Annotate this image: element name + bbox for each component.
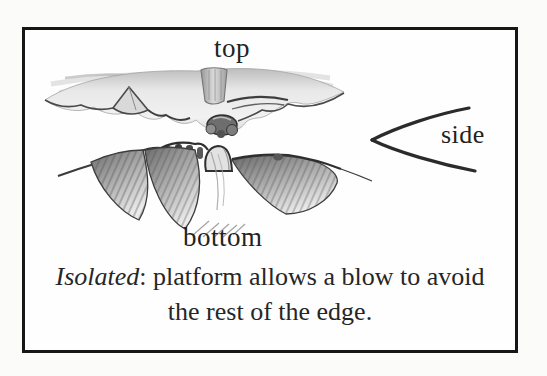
platform-bump xyxy=(205,146,232,171)
label-bottom: bottom xyxy=(183,223,263,251)
platform-column xyxy=(201,68,227,104)
caption-line1: Isolated: platform allows a blow to avoi… xyxy=(25,259,515,294)
page: { "page": { "background": "#fbfbf9" }, "… xyxy=(0,0,547,376)
isolated-platform-knob xyxy=(206,115,238,138)
figure-frame: top side bottom Isolated: platform allow… xyxy=(22,27,518,353)
figure-caption: Isolated: platform allows a blow to avoi… xyxy=(25,259,515,329)
caption-line2: the rest of the edge. xyxy=(25,294,515,329)
label-top: top xyxy=(214,34,250,62)
top-view-sketch xyxy=(45,68,344,138)
caption-term: Isolated xyxy=(56,262,140,291)
caption-rest: : platform allows a blow to avoid xyxy=(139,262,484,291)
label-side: side xyxy=(441,121,485,149)
